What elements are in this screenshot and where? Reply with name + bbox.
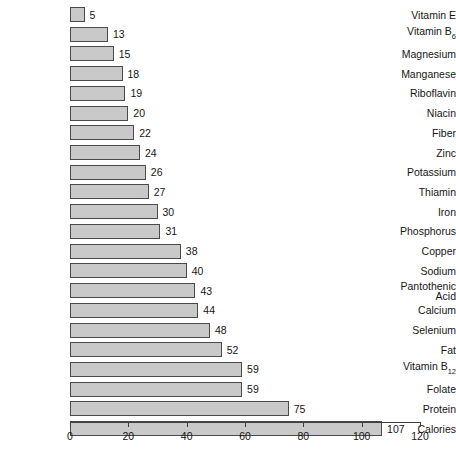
- bar-value-label: 5: [90, 9, 96, 20]
- x-axis-tick: [187, 422, 188, 427]
- bar: [70, 145, 140, 160]
- x-axis-tick-label: 40: [181, 430, 193, 442]
- bar-row: Calcium44: [0, 303, 456, 318]
- bar: [70, 125, 134, 140]
- bar: [70, 342, 222, 357]
- bar-row: Folate59: [0, 382, 456, 397]
- bar-row: Pantothenic Acid43: [0, 283, 456, 298]
- bar: [70, 7, 85, 22]
- bar-row: Phosphorus31: [0, 224, 456, 239]
- bar: [70, 401, 289, 416]
- bar-label: Niacin: [389, 108, 456, 119]
- bar-value-label: 24: [145, 147, 157, 158]
- x-axis-tick: [128, 422, 129, 427]
- bar-row: Vitamin E5: [0, 7, 456, 22]
- bar-label: Sodium: [389, 265, 456, 276]
- bar-row: Potassium26: [0, 165, 456, 180]
- x-axis-tick-label: 100: [353, 430, 371, 442]
- bar-value-label: 31: [165, 226, 177, 237]
- bar-row: Iron30: [0, 204, 456, 219]
- bar-value-label: 48: [215, 325, 227, 336]
- bar-value-label: 19: [130, 88, 142, 99]
- bar-label: Copper: [389, 246, 456, 257]
- bar-label: Vitamin B12: [389, 362, 456, 377]
- bar-value-label: 30: [163, 206, 175, 217]
- bar: [70, 244, 181, 259]
- bar-row: Manganese18: [0, 66, 456, 81]
- bar-value-label: 38: [186, 246, 198, 257]
- bar-label: Thiamin: [389, 186, 456, 197]
- x-axis-tick: [420, 422, 421, 427]
- x-axis-tick: [70, 422, 71, 427]
- bar-row: Copper38: [0, 244, 456, 259]
- bar-row: Selenium48: [0, 323, 456, 338]
- bar-row: Zinc24: [0, 145, 456, 160]
- bar-label: Manganese: [389, 68, 456, 79]
- bar-row: Vitamin B1259: [0, 362, 456, 377]
- x-axis-tick: [362, 422, 363, 427]
- bar-label: Vitamin B6: [389, 27, 456, 42]
- bar-row: Fiber22: [0, 125, 456, 140]
- x-axis-tick-label: 120: [411, 430, 429, 442]
- horizontal-bar-chart: Vitamin E5Vitamin B613Magnesium15Mangane…: [0, 0, 456, 457]
- x-axis-tick: [303, 422, 304, 427]
- bar-value-label: 27: [154, 186, 166, 197]
- bar: [70, 303, 198, 318]
- bar-row: Vitamin B613: [0, 27, 456, 42]
- bar-label: Iron: [389, 206, 456, 217]
- bar-value-label: 13: [113, 29, 125, 40]
- bar-label: Magnesium: [389, 48, 456, 59]
- bar: [70, 382, 242, 397]
- bar-value-label: 43: [200, 285, 212, 296]
- bar: [70, 165, 146, 180]
- bar-value-label: 26: [151, 167, 163, 178]
- x-axis-tick-label: 80: [297, 430, 309, 442]
- bar-value-label: 59: [247, 384, 259, 395]
- bar: [70, 204, 158, 219]
- x-axis-tick-label: 0: [67, 430, 73, 442]
- bar: [70, 224, 160, 239]
- bar-label: Riboflavin: [389, 88, 456, 99]
- bar-label: Calcium: [389, 305, 456, 316]
- bar-label: Protein: [389, 403, 456, 414]
- bar-row: Fat52: [0, 342, 456, 357]
- bar-value-label: 75: [294, 403, 306, 414]
- bar-label-subscript: 6: [452, 32, 456, 41]
- bar: [70, 86, 125, 101]
- bar-label-subscript: 12: [448, 367, 456, 376]
- bar-label: Folate: [389, 384, 456, 395]
- bar-row: Riboflavin19: [0, 86, 456, 101]
- bar-row: Thiamin27: [0, 184, 456, 199]
- bar-label: Vitamin E: [389, 9, 456, 20]
- bar: [70, 46, 114, 61]
- bar: [70, 106, 128, 121]
- bar-row: Protein75: [0, 401, 456, 416]
- bar-value-label: 22: [139, 127, 151, 138]
- bar-label: Pantothenic Acid: [389, 280, 456, 301]
- clipped-caption-fragment: [0, 449, 456, 457]
- bar-label: Fiber: [389, 127, 456, 138]
- x-axis-tick: [245, 422, 246, 427]
- bar: [70, 27, 108, 42]
- bar-value-label: 107: [387, 423, 405, 434]
- bar-value-label: 52: [227, 344, 239, 355]
- bar-row: Magnesium15: [0, 46, 456, 61]
- bar-value-label: 44: [203, 305, 215, 316]
- bar-value-label: 15: [119, 48, 131, 59]
- bar-label: Zinc: [389, 147, 456, 158]
- bar-label: Fat: [389, 344, 456, 355]
- bar: [70, 184, 149, 199]
- bar-label: Phosphorus: [389, 226, 456, 237]
- bar-value-label: 18: [128, 68, 140, 79]
- bar: [70, 283, 195, 298]
- bar-row: Sodium40: [0, 263, 456, 278]
- bar: [70, 263, 187, 278]
- x-axis-tick-label: 60: [239, 430, 251, 442]
- bar: [70, 421, 382, 436]
- bar-label: Selenium: [389, 325, 456, 336]
- bar-label: Potassium: [389, 167, 456, 178]
- bar-row: Niacin20: [0, 106, 456, 121]
- bar: [70, 362, 242, 377]
- x-axis-tick-label: 20: [122, 430, 134, 442]
- bar-value-label: 40: [192, 265, 204, 276]
